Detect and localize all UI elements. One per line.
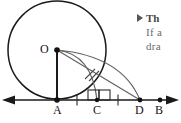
theorem-note-heading: Th	[137, 12, 181, 24]
point-C	[95, 98, 99, 102]
theorem-note: Th If a dra	[137, 12, 181, 52]
point-A	[54, 97, 60, 103]
inner-arc	[57, 50, 97, 100]
point-label-O: O	[40, 43, 49, 55]
baseline-right-arrowhead	[166, 95, 179, 104]
theorem-note-line-2: If a	[146, 26, 181, 38]
right-angle-marker	[88, 90, 110, 100]
point-label-C: C	[93, 104, 101, 116]
diagram-canvas: O A C D B Th If a dra	[0, 0, 181, 123]
point-label-B: B	[155, 104, 163, 116]
theorem-note-line-3: dra	[146, 40, 181, 52]
point-label-D: D	[135, 104, 144, 116]
point-O	[54, 47, 60, 53]
theorem-note-title: Th	[146, 12, 159, 24]
point-B	[158, 98, 163, 103]
point-markers	[54, 47, 162, 103]
baseline-left-arrowhead	[2, 95, 15, 104]
point-D	[138, 98, 143, 103]
right-triangle-bullet-icon	[137, 14, 143, 22]
point-label-A: A	[53, 104, 62, 116]
